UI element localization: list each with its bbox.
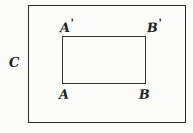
label-b-prime-letter: B bbox=[147, 20, 159, 35]
label-a-prime: A' bbox=[59, 18, 74, 35]
inner-rectangle-abab bbox=[62, 36, 146, 84]
geometry-figure: C A' B' A B bbox=[0, 0, 193, 133]
prime-mark-a: ' bbox=[69, 17, 74, 30]
prime-mark-b: ' bbox=[157, 16, 162, 29]
label-c: C bbox=[9, 56, 20, 70]
label-b: B bbox=[139, 88, 150, 101]
label-a: A bbox=[59, 88, 70, 101]
label-b-prime: B' bbox=[146, 17, 162, 34]
label-a-prime-letter: A bbox=[60, 20, 71, 35]
